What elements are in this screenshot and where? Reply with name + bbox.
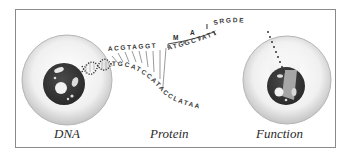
dna-upper-strand: ACGTAGGT (108, 42, 158, 52)
dna-cell (22, 35, 112, 125)
label-protein: Protein (150, 126, 189, 142)
peptide-tail: SRGDE (213, 16, 246, 26)
label-dna: DNA (54, 126, 80, 142)
amino-acid-a: A (190, 29, 195, 36)
dna-lower-strand: TGCATCCATACCLATAA (112, 60, 202, 110)
function-cell (243, 31, 331, 124)
amino-acid-i: I (206, 23, 208, 30)
label-function: Function (256, 126, 303, 142)
amino-acid-m: M (173, 34, 178, 41)
